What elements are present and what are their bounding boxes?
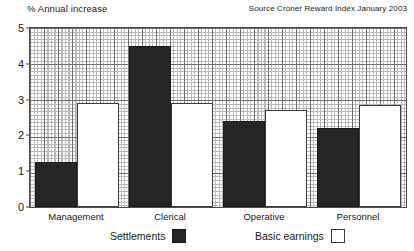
y-axis-tick-label: 0 <box>18 202 24 213</box>
y-axis-tick-mark <box>26 63 30 64</box>
bar-settlements-clerical <box>129 46 171 207</box>
bar-basic-earnings-clerical <box>171 103 213 207</box>
legend-label-settlements: Settlements <box>110 230 165 242</box>
bar-basic-earnings-management <box>77 103 119 207</box>
y-axis-tick-mark <box>26 99 30 100</box>
legend-swatch-settlements <box>172 229 186 243</box>
y-axis-tick-mark <box>26 135 30 136</box>
x-axis-label-personnel: Personnel <box>337 211 380 222</box>
bar-basic-earnings-personnel <box>359 105 401 207</box>
bar-settlements-personnel <box>317 128 359 207</box>
source-note: Source Croner Reward Index January 2003 <box>249 4 407 13</box>
bar-settlements-operative <box>223 121 265 207</box>
y-axis-tick-label: 5 <box>18 23 24 34</box>
x-axis-label-clerical: Clerical <box>154 211 186 222</box>
y-axis-title: % Annual increase <box>27 3 107 14</box>
bar-chart-figure: % Annual increase Source Croner Reward I… <box>0 0 414 251</box>
y-axis-tick-mark <box>26 207 30 208</box>
legend-item-basic-earnings: Basic earnings <box>255 229 345 243</box>
y-axis-tick-mark <box>26 171 30 172</box>
legend-item-settlements: Settlements <box>110 229 186 243</box>
bar-basic-earnings-operative <box>265 110 307 207</box>
y-axis-tick-label: 1 <box>18 166 24 177</box>
x-axis-label-management: Management <box>48 211 103 222</box>
bar-settlements-management <box>35 162 77 207</box>
y-axis-tick-label: 4 <box>18 58 24 69</box>
legend-swatch-basic-earnings <box>331 229 345 243</box>
y-axis-tick-label: 3 <box>18 94 24 105</box>
x-axis-label-operative: Operative <box>243 211 284 222</box>
plot-area: 012345 <box>29 27 407 208</box>
legend-label-basic-earnings: Basic earnings <box>255 230 324 242</box>
chart-legend: Settlements Basic earnings <box>0 229 414 251</box>
y-axis-tick-mark <box>26 28 30 29</box>
y-axis-tick-label: 2 <box>18 130 24 141</box>
